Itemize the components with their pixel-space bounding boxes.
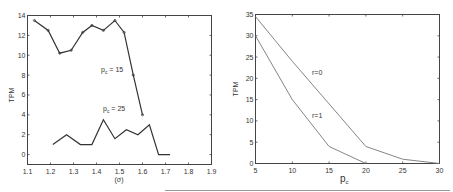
x-tick-label: 1.1 xyxy=(23,168,33,175)
right-plot-frame xyxy=(256,15,440,164)
annotation-pc25: pc = 25 xyxy=(103,105,125,114)
y-tick-label: 0 xyxy=(22,151,26,158)
x-tick-label: 15 xyxy=(325,167,333,174)
x-tick-label: 1.6 xyxy=(138,168,148,175)
y-tick-label: 35 xyxy=(246,11,254,18)
right-series xyxy=(256,17,440,164)
y-tick-label: 25 xyxy=(246,54,254,61)
y-tick-label: 30 xyxy=(246,32,254,39)
right-y-ticks: 05101520253035 xyxy=(246,11,440,167)
y-tick-label: 10 xyxy=(246,117,254,124)
y-tick-label: 5 xyxy=(250,139,254,146)
annotation-pc25-rest: = 25 xyxy=(109,105,125,112)
x-tick-label: 30 xyxy=(436,167,444,174)
data-point xyxy=(141,114,143,116)
right-x-axis-label-sub: c xyxy=(346,179,349,185)
y-tick-label: 0 xyxy=(250,160,254,167)
y-tick-label: 15 xyxy=(246,96,254,103)
x-tick-label: 5 xyxy=(254,167,258,174)
right-plot: 51015202530 05101520253035 TPM pc r=0 r=… xyxy=(232,11,443,185)
left-y-ticks: 02468101214 xyxy=(18,12,212,158)
y-tick-label: 6 xyxy=(22,91,26,98)
y-tick-label: 12 xyxy=(18,32,26,39)
y-tick-label: 4 xyxy=(22,111,26,118)
y-tick-label: 8 xyxy=(22,72,26,79)
series-line-0 xyxy=(256,17,440,164)
left-x-axis-label: (σ) xyxy=(115,176,124,184)
x-tick-label: 1.9 xyxy=(207,168,217,175)
right-x-ticks: 51015202530 xyxy=(254,15,444,174)
annotation-pc15-rest: = 15 xyxy=(107,66,123,73)
figure: 1.11.21.31.41.51.61.71.81.9 02468101214 … xyxy=(0,0,453,192)
left-y-axis-label: TPM xyxy=(8,87,15,102)
x-tick-label: 1.3 xyxy=(69,168,79,175)
left-plot-frame xyxy=(28,16,212,165)
y-tick-label: 14 xyxy=(18,12,26,19)
right-x-axis-label: pc xyxy=(340,173,349,185)
annotation-pc15: pc = 15 xyxy=(101,66,123,75)
x-tick-label: 10 xyxy=(288,167,296,174)
y-tick-label: 2 xyxy=(22,131,26,138)
x-tick-label: 1.8 xyxy=(184,168,194,175)
left-series xyxy=(33,19,170,154)
left-plot: 1.11.21.31.41.51.61.71.81.9 02468101214 … xyxy=(8,12,216,184)
x-tick-label: 25 xyxy=(399,167,407,174)
series-line-1 xyxy=(53,120,170,155)
y-tick-label: 20 xyxy=(246,75,254,82)
annotation-r1: r=1 xyxy=(312,112,322,119)
x-tick-label: 1.5 xyxy=(115,168,125,175)
left-x-ticks: 1.11.21.31.41.51.61.71.81.9 xyxy=(23,16,217,175)
right-y-axis-label: TPM xyxy=(232,81,239,96)
series-line-1 xyxy=(256,36,366,164)
data-point xyxy=(33,19,35,21)
x-tick-label: 1.4 xyxy=(92,168,102,175)
series-line-0 xyxy=(34,21,142,115)
x-tick-label: 1.2 xyxy=(46,168,56,175)
x-tick-label: 1.7 xyxy=(161,168,171,175)
x-tick-label: 20 xyxy=(362,167,370,174)
y-tick-label: 10 xyxy=(18,52,26,59)
annotation-r0: r=0 xyxy=(312,69,322,76)
